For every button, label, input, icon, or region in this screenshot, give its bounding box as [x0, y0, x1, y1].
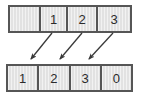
source-array-row: 1 2 3 [8, 5, 132, 33]
destination-cell-3: 0 [102, 66, 131, 90]
array-shift-diagram: 1 2 3 1 2 3 0 [0, 0, 141, 95]
source-cell-2-label: 2 [78, 13, 85, 26]
source-cell-1: 1 [41, 7, 68, 31]
destination-cell-0: 1 [8, 66, 39, 90]
source-cell-1-label: 1 [50, 13, 57, 26]
source-cell-2: 2 [68, 7, 98, 31]
destination-cell-2: 3 [71, 66, 102, 90]
arrow-3 [89, 33, 113, 59]
destination-cell-0-label: 1 [19, 72, 26, 85]
arrow-1 [31, 33, 52, 59]
destination-cell-1-label: 2 [50, 72, 57, 85]
shift-arrow-group [31, 33, 113, 59]
source-cell-3: 3 [98, 7, 130, 31]
source-cell-3-label: 3 [110, 13, 117, 26]
source-cell-0 [10, 7, 41, 31]
destination-cell-1: 2 [39, 66, 70, 90]
arrow-2 [60, 33, 82, 59]
destination-cell-3-label: 0 [113, 72, 120, 85]
destination-cell-2-label: 3 [82, 72, 89, 85]
destination-array-row: 1 2 3 0 [6, 64, 133, 92]
